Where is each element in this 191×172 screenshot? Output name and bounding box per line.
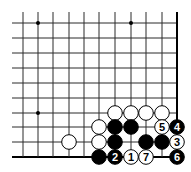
move-number-label: 6 — [174, 151, 180, 163]
stone-disc — [139, 106, 154, 121]
stone-disc — [92, 150, 107, 165]
stone-disc — [108, 135, 123, 150]
black-stone — [139, 135, 154, 150]
black-stone — [155, 135, 170, 150]
stone-disc — [108, 106, 123, 121]
go-board: 5432176 — [0, 0, 191, 172]
black-stone: 2 — [108, 150, 123, 165]
move-number-label: 4 — [174, 121, 181, 133]
stone-disc — [92, 135, 107, 150]
white-stone: 1 — [124, 150, 139, 165]
star-point — [129, 21, 133, 25]
black-stone — [124, 120, 139, 135]
move-number-label: 3 — [174, 136, 180, 148]
stone-disc — [108, 120, 123, 135]
black-stone: 4 — [170, 120, 185, 135]
white-stone — [155, 106, 170, 121]
stone-disc — [155, 135, 170, 150]
stone-disc — [62, 135, 77, 150]
stone-disc — [139, 135, 154, 150]
star-point — [36, 21, 40, 25]
board-grid — [12, 12, 177, 157]
white-stone: 7 — [139, 150, 154, 165]
white-stone — [62, 135, 77, 150]
stone-disc — [92, 120, 107, 135]
stone-disc — [124, 120, 139, 135]
stone-disc — [124, 106, 139, 121]
white-stone — [124, 106, 139, 121]
white-stone: 5 — [155, 120, 170, 135]
black-stone — [108, 135, 123, 150]
black-stone — [92, 150, 107, 165]
move-number-label: 2 — [112, 151, 118, 163]
stone-disc — [155, 106, 170, 121]
white-stone — [92, 135, 107, 150]
black-stone: 6 — [170, 150, 185, 165]
move-number-label: 1 — [128, 151, 134, 163]
white-stone — [139, 106, 154, 121]
white-stone — [108, 106, 123, 121]
move-number-label: 5 — [159, 121, 165, 133]
stones-layer: 5432176 — [62, 106, 185, 165]
move-number-label: 7 — [143, 151, 149, 163]
white-stone: 3 — [170, 135, 185, 150]
star-point — [36, 111, 40, 115]
white-stone — [92, 120, 107, 135]
black-stone — [108, 120, 123, 135]
